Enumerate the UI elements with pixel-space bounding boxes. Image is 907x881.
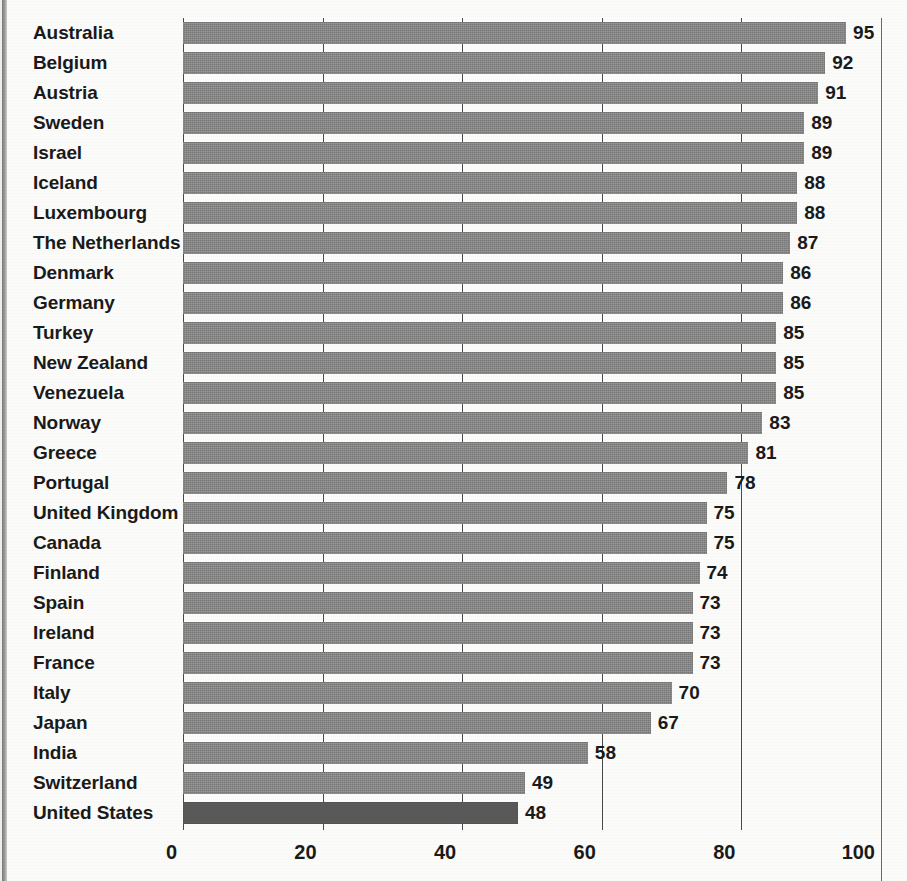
bar-row: 73 bbox=[183, 618, 881, 648]
bar-row: 86 bbox=[183, 258, 881, 288]
plot-area: 9592918989888887868685858583817875757473… bbox=[183, 18, 881, 830]
bar-value-label: 73 bbox=[700, 622, 721, 644]
bar-india bbox=[183, 742, 588, 764]
bar-value-label: 67 bbox=[658, 712, 679, 734]
bar-italy bbox=[183, 682, 672, 704]
bar-row: 85 bbox=[183, 318, 881, 348]
bar-denmark bbox=[183, 262, 783, 284]
bar-chart-figure: AustraliaBelgiumAustriaSwedenIsraelIcela… bbox=[0, 0, 907, 881]
bar-value-label: 92 bbox=[832, 52, 853, 74]
bar-row: 75 bbox=[183, 498, 881, 528]
bar-value-label: 78 bbox=[734, 472, 755, 494]
bar-value-label: 83 bbox=[769, 412, 790, 434]
category-label-switzerland: Switzerland bbox=[33, 768, 181, 798]
category-label-japan: Japan bbox=[33, 708, 181, 738]
bar-row: 87 bbox=[183, 228, 881, 258]
category-label-iceland: Iceland bbox=[33, 168, 181, 198]
xtick-label-80: 80 bbox=[675, 838, 735, 866]
bar-value-label: 85 bbox=[783, 322, 804, 344]
bar-row: 88 bbox=[183, 198, 881, 228]
category-label-norway: Norway bbox=[33, 408, 181, 438]
bar-row: 85 bbox=[183, 348, 881, 378]
xtick-label-20: 20 bbox=[257, 838, 317, 866]
bar-value-label: 73 bbox=[700, 592, 721, 614]
bar-venezuela bbox=[183, 382, 776, 404]
bar-spain bbox=[183, 592, 693, 614]
category-label-ireland: Ireland bbox=[33, 618, 181, 648]
bar-row: 91 bbox=[183, 78, 881, 108]
bar-row: 70 bbox=[183, 678, 881, 708]
bar-canada bbox=[183, 532, 707, 554]
bar-row: 73 bbox=[183, 648, 881, 678]
bar-iceland bbox=[183, 172, 797, 194]
bar-row: 78 bbox=[183, 468, 881, 498]
bar-value-label: 86 bbox=[790, 292, 811, 314]
bar-united-kingdom bbox=[183, 502, 707, 524]
bar-germany bbox=[183, 292, 783, 314]
bar-row: 83 bbox=[183, 408, 881, 438]
bar-row: 89 bbox=[183, 138, 881, 168]
xtick-label-0: 0 bbox=[117, 838, 177, 866]
bar-row: 49 bbox=[183, 768, 881, 798]
category-label-canada: Canada bbox=[33, 528, 181, 558]
xtick-label-60: 60 bbox=[536, 838, 596, 866]
category-label-sweden: Sweden bbox=[33, 108, 181, 138]
bar-value-label: 81 bbox=[755, 442, 776, 464]
bar-new-zealand bbox=[183, 352, 776, 374]
bar-value-label: 89 bbox=[811, 142, 832, 164]
bar-belgium bbox=[183, 52, 825, 74]
bar-row: 89 bbox=[183, 108, 881, 138]
bar-norway bbox=[183, 412, 762, 434]
bar-value-label: 85 bbox=[783, 352, 804, 374]
bar-value-label: 75 bbox=[714, 502, 735, 524]
category-label-austria: Austria bbox=[33, 78, 181, 108]
bar-row: 75 bbox=[183, 528, 881, 558]
bar-sweden bbox=[183, 112, 804, 134]
category-label-new-zealand: New Zealand bbox=[33, 348, 181, 378]
bar-value-label: 86 bbox=[790, 262, 811, 284]
bar-row: 86 bbox=[183, 288, 881, 318]
category-label-israel: Israel bbox=[33, 138, 181, 168]
xtick-label-40: 40 bbox=[396, 838, 456, 866]
scan-edge-artifact bbox=[2, 0, 7, 881]
category-label-india: India bbox=[33, 738, 181, 768]
bar-israel bbox=[183, 142, 804, 164]
bar-switzerland bbox=[183, 772, 525, 794]
category-label-belgium: Belgium bbox=[33, 48, 181, 78]
bar-finland bbox=[183, 562, 700, 584]
gridline-100 bbox=[881, 18, 882, 881]
bar-row: 81 bbox=[183, 438, 881, 468]
category-label-germany: Germany bbox=[33, 288, 181, 318]
category-label-the-netherlands: The Netherlands bbox=[33, 228, 181, 258]
bar-france bbox=[183, 652, 693, 674]
category-label-spain: Spain bbox=[33, 588, 181, 618]
bar-row: 67 bbox=[183, 708, 881, 738]
category-label-australia: Australia bbox=[33, 18, 181, 48]
bar-row: 95 bbox=[183, 18, 881, 48]
bar-australia bbox=[183, 22, 846, 44]
bar-the-netherlands bbox=[183, 232, 790, 254]
bar-row: 58 bbox=[183, 738, 881, 768]
bar-value-label: 85 bbox=[783, 382, 804, 404]
bar-greece bbox=[183, 442, 748, 464]
bar-value-label: 58 bbox=[595, 742, 616, 764]
bar-value-label: 49 bbox=[532, 772, 553, 794]
category-label-italy: Italy bbox=[33, 678, 181, 708]
category-label-france: France bbox=[33, 648, 181, 678]
bar-row: 85 bbox=[183, 378, 881, 408]
bar-value-label: 75 bbox=[714, 532, 735, 554]
bar-value-label: 88 bbox=[804, 172, 825, 194]
bar-value-label: 70 bbox=[679, 682, 700, 704]
bar-united-states bbox=[183, 802, 518, 824]
category-label-finland: Finland bbox=[33, 558, 181, 588]
bar-ireland bbox=[183, 622, 693, 644]
bar-portugal bbox=[183, 472, 727, 494]
category-label-turkey: Turkey bbox=[33, 318, 181, 348]
bar-value-label: 91 bbox=[825, 82, 846, 104]
category-label-united-states: United States bbox=[33, 798, 181, 828]
category-label-united-kingdom: United Kingdom bbox=[33, 498, 181, 528]
bar-row: 73 bbox=[183, 588, 881, 618]
bar-row: 92 bbox=[183, 48, 881, 78]
bar-value-label: 87 bbox=[797, 232, 818, 254]
bar-row: 48 bbox=[183, 798, 881, 828]
